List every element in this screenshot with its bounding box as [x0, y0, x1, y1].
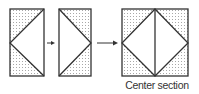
step-2-block	[59, 9, 91, 76]
center-section-block	[122, 9, 188, 76]
step-1-block	[10, 9, 44, 76]
arrow-right-icon	[97, 41, 118, 46]
arrow-right-icon	[47, 41, 55, 45]
center-section-caption: Center section	[118, 79, 196, 91]
